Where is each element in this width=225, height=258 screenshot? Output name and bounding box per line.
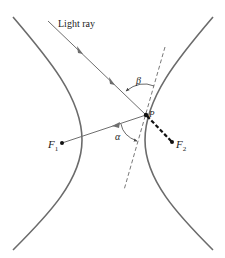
- light-ray-arrow-1: [77, 46, 83, 54]
- tangent-line: [124, 47, 165, 190]
- hyperbola-right-branch: [145, 17, 213, 250]
- focus-f2-point: [170, 140, 174, 144]
- focus-f1-point: [60, 141, 64, 145]
- angle-alpha-label: α: [115, 131, 121, 142]
- focus-f1-label: F1: [47, 138, 59, 153]
- angle-alpha-arc: [121, 124, 137, 141]
- light-ray-line: [48, 21, 146, 115]
- focus-f2-label: F2: [175, 138, 187, 153]
- point-p: [144, 113, 148, 117]
- reflected-ray-arrow: [112, 122, 120, 128]
- angle-beta-label: β: [135, 75, 141, 86]
- point-p-label: P: [148, 109, 155, 119]
- reflected-ray-line: [62, 115, 146, 143]
- light-ray-arrow-2: [109, 77, 115, 85]
- p-to-f2-segment: [147, 116, 172, 142]
- hyperbola-reflection-diagram: Light ray P β α F1 F2: [0, 0, 225, 258]
- light-ray-label: Light ray: [58, 18, 95, 29]
- hyperbola-left-branch: [13, 17, 82, 250]
